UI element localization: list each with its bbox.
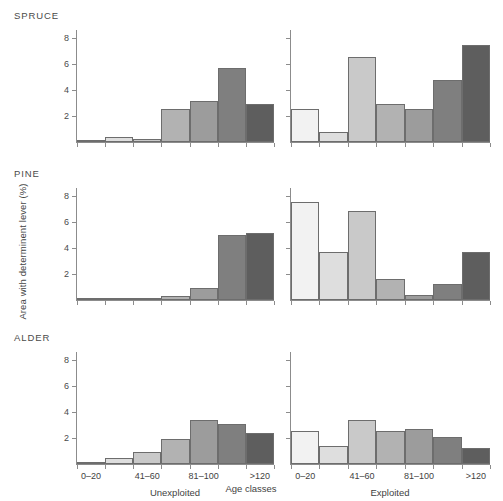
y-tick: [286, 196, 290, 197]
bar[interactable]: [246, 104, 274, 142]
bar[interactable]: [376, 431, 404, 464]
bar[interactable]: [376, 279, 404, 300]
x-tick: [405, 465, 406, 469]
x-tick: [291, 143, 292, 147]
x-tick: [77, 143, 78, 147]
bar[interactable]: [161, 296, 189, 300]
y-tick: [286, 274, 290, 275]
bar[interactable]: [77, 140, 105, 142]
y-tick: [286, 248, 290, 249]
x-tick: [376, 143, 377, 147]
bar[interactable]: [433, 80, 461, 143]
column-caption-exploited: Exploited: [370, 487, 409, 498]
bar[interactable]: [218, 68, 246, 142]
x-tick: [218, 301, 219, 305]
y-tick: [72, 360, 76, 361]
bar[interactable]: [291, 202, 319, 300]
x-tick-label: 41–60: [135, 471, 160, 481]
bar[interactable]: [319, 132, 347, 142]
y-tick-label: 6: [64, 59, 69, 69]
bar[interactable]: [348, 420, 376, 464]
x-tick: [218, 465, 219, 469]
x-tick: [105, 143, 106, 147]
bar[interactable]: [190, 101, 218, 142]
bar[interactable]: [105, 137, 133, 142]
bar[interactable]: [462, 448, 490, 464]
bar-series: [77, 188, 274, 300]
bar[interactable]: [462, 45, 490, 142]
y-tick: [286, 412, 290, 413]
figure-root: Area with determinent lever (%) SPRUCE86…: [0, 0, 503, 501]
y-tick: [286, 360, 290, 361]
bar[interactable]: [348, 57, 376, 142]
bar[interactable]: [77, 298, 105, 300]
y-tick: [286, 38, 290, 39]
y-tick: [72, 248, 76, 249]
x-tick: [405, 301, 406, 305]
y-tick-label: 2: [64, 111, 69, 121]
y-tick: [72, 38, 76, 39]
bar[interactable]: [433, 437, 461, 464]
bar[interactable]: [77, 462, 105, 464]
bar[interactable]: [190, 420, 218, 464]
x-axis-title: Age classes: [225, 483, 276, 494]
x-tick: [376, 465, 377, 469]
bar[interactable]: [133, 452, 161, 464]
bar[interactable]: [291, 431, 319, 464]
bar[interactable]: [246, 433, 274, 464]
x-tick: [433, 301, 434, 305]
bar[interactable]: [190, 288, 218, 300]
x-tick: [161, 143, 162, 147]
y-tick: [286, 438, 290, 439]
x-tick: [490, 465, 491, 469]
y-tick-label: 6: [64, 217, 69, 227]
bar[interactable]: [405, 295, 433, 300]
x-tick: [77, 465, 78, 469]
bar[interactable]: [319, 252, 347, 300]
bar[interactable]: [405, 109, 433, 142]
y-tick-label: 4: [64, 243, 69, 253]
x-tick: [246, 301, 247, 305]
bar[interactable]: [133, 139, 161, 142]
plot-spruce-unexploited: 8642: [76, 30, 274, 143]
bar-series: [77, 352, 274, 464]
x-tick: [274, 465, 275, 469]
y-tick: [72, 438, 76, 439]
bar[interactable]: [161, 439, 189, 464]
x-tick: [161, 301, 162, 305]
y-tick-label: 6: [64, 381, 69, 391]
x-tick-label: 0–20: [81, 471, 101, 481]
bar[interactable]: [433, 284, 461, 300]
x-tick: [433, 465, 434, 469]
x-tick: [190, 143, 191, 147]
bar[interactable]: [218, 424, 246, 464]
plot-alder-exploited: 0–2041–6081–100>120Exploited: [290, 352, 490, 465]
x-tick: [105, 301, 106, 305]
x-tick: [77, 301, 78, 305]
panel-title-alder: ALDER: [14, 332, 50, 343]
bar[interactable]: [105, 458, 133, 465]
x-tick: [246, 143, 247, 147]
bar[interactable]: [405, 429, 433, 464]
bar[interactable]: [462, 252, 490, 300]
x-tick: [376, 301, 377, 305]
bar-series: [291, 30, 490, 142]
panel-title-pine: PINE: [14, 168, 40, 179]
x-tick: [348, 465, 349, 469]
y-tick: [72, 412, 76, 413]
y-tick: [72, 64, 76, 65]
x-tick: [246, 465, 247, 469]
bar[interactable]: [348, 211, 376, 300]
bar[interactable]: [105, 298, 133, 300]
bar[interactable]: [218, 235, 246, 300]
y-tick: [72, 222, 76, 223]
bar[interactable]: [319, 446, 347, 464]
y-tick: [72, 90, 76, 91]
bar[interactable]: [133, 298, 161, 300]
y-tick: [72, 116, 76, 117]
bar[interactable]: [161, 109, 189, 142]
bar[interactable]: [376, 104, 404, 142]
plot-pine-exploited: [290, 188, 490, 301]
bar[interactable]: [246, 233, 274, 300]
bar[interactable]: [291, 109, 319, 142]
